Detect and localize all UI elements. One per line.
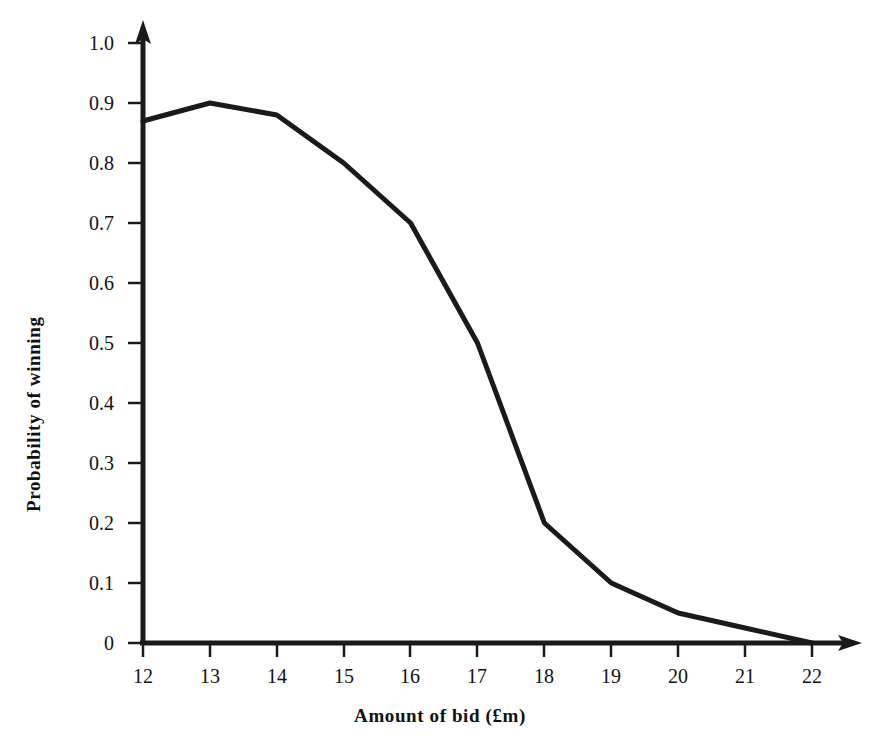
x-tick-label-15: 15 — [334, 666, 354, 686]
y-tick-label-0.2: 0.2 — [52, 513, 114, 533]
y-tick-label-0.8: 0.8 — [52, 153, 114, 173]
x-tick-label-18: 18 — [534, 666, 554, 686]
y-tick-label-0.1: 0.1 — [52, 573, 114, 593]
x-tick-label-12: 12 — [133, 666, 153, 686]
x-tick-label-14: 14 — [267, 666, 287, 686]
y-tick-label-0.3: 0.3 — [52, 453, 114, 473]
x-tick-label-17: 17 — [467, 666, 487, 686]
y-tick-label-0.4: 0.4 — [52, 393, 114, 413]
plot-area — [0, 0, 880, 756]
y-tick-label-1.0: 1.0 — [52, 33, 114, 53]
x-tick-label-21: 21 — [735, 666, 755, 686]
y-tick-label-0: 0 — [52, 633, 114, 653]
x-tick-label-19: 19 — [601, 666, 621, 686]
y-tick-label-0.5: 0.5 — [52, 333, 114, 353]
y-tick-label-0.6: 0.6 — [52, 273, 114, 293]
y-tick-label-0.7: 0.7 — [52, 213, 114, 233]
y-axis-title: Probability of winning — [24, 317, 43, 513]
x-tick-label-16: 16 — [400, 666, 420, 686]
x-tick-label-13: 13 — [200, 666, 220, 686]
y-tick-label-0.9: 0.9 — [52, 93, 114, 113]
x-axis-title: Amount of bid (£m) — [0, 706, 880, 725]
x-tick-label-22: 22 — [802, 666, 822, 686]
x-tick-label-20: 20 — [668, 666, 688, 686]
chart-figure: 1.0 0.9 0.8 0.7 0.6 0.5 0.4 0.3 0.2 0.1 … — [0, 0, 880, 756]
